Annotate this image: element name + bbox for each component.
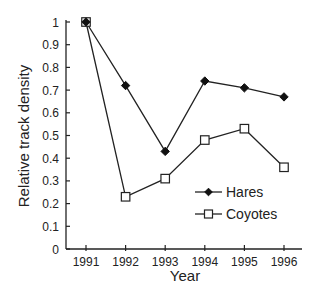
y-tick-label: 0.4 [42,152,59,166]
x-tick-label: 1994 [191,255,218,269]
y-axis-label-group: Relative track density [15,64,32,207]
y-tick-label: 0.3 [42,174,59,188]
y-tick-label: 0.1 [42,220,59,234]
legend-marker-hares [205,188,213,196]
data-point-coyotes [240,124,249,133]
series-line-coyotes [86,22,284,197]
data-point-hares [280,93,288,101]
data-point-hares [121,81,129,89]
y-tick-label: 0.9 [42,38,59,52]
x-tick-label: 1992 [112,255,139,269]
data-point-coyotes [201,136,210,145]
y-axis-label: Relative track density [15,64,32,207]
data-point-coyotes [161,174,170,183]
legend-label-hares: Hares [226,184,263,200]
series-line-hares [86,22,284,151]
x-axis-label: Year [170,267,200,284]
data-point-hares [240,84,248,92]
data-point-coyotes [280,163,289,172]
legend-marker-coyotes [205,210,213,218]
series-lines [86,22,284,197]
x-tick-label: 1995 [231,255,258,269]
y-tick-label: 0 [52,243,59,257]
x-tick-label: 1991 [73,255,100,269]
series-markers [82,18,289,201]
data-point-coyotes [121,193,130,202]
y-tick-label: 0.6 [42,106,59,120]
x-tick-label: 1996 [271,255,298,269]
data-point-hares [201,77,209,85]
legend: HaresCoyotes [195,184,277,222]
y-tick-label: 0.2 [42,197,59,211]
x-tick-label: 1993 [152,255,179,269]
y-tick-label: 0.5 [42,129,59,143]
y-tick-label: 0.7 [42,84,59,98]
data-point-hares [161,147,169,155]
legend-label-coyotes: Coyotes [226,206,277,222]
y-tick-label: 0.8 [42,61,59,75]
line-chart: Relative track density Year 00.10.20.30.… [0,0,319,295]
y-tick-label: 1 [52,16,59,30]
